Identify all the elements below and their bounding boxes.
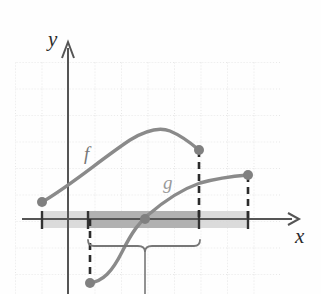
f-left-endpoint-dot — [37, 197, 47, 207]
f-right-endpoint-dot — [194, 145, 204, 155]
curve-label-g: g — [163, 172, 173, 193]
g-left-endpoint-dot — [85, 278, 95, 288]
y-axis-label: y — [46, 27, 58, 51]
intersection-dot — [140, 214, 150, 224]
x-axis-label: x — [294, 224, 305, 248]
grid — [15, 62, 280, 294]
figure-canvas: y x f g — [0, 0, 321, 294]
g-right-endpoint-dot — [243, 170, 253, 180]
math-figure: y x f g — [0, 0, 321, 294]
